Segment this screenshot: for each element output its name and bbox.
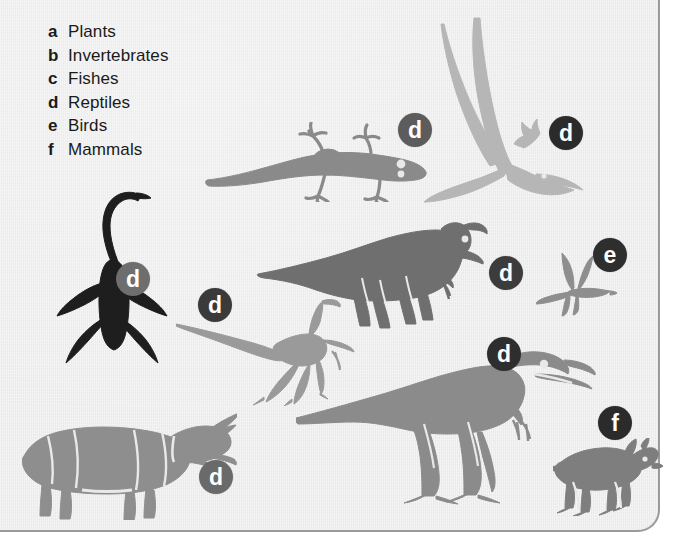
lizard-silhouette [205, 122, 430, 202]
figure-panel: a Plants b Invertebrates c Fishes d Rept… [0, 0, 678, 554]
label-badge-pterosaur: d [549, 116, 583, 150]
legend-item-c: c Fishes [48, 69, 169, 93]
legend-item-d: d Reptiles [48, 93, 169, 117]
legend-key-e: e [48, 116, 68, 136]
label-badge-hadrosaur: d [489, 256, 523, 290]
legend-item-b: b Invertebrates [48, 46, 169, 70]
plesiosaur-silhouette [56, 190, 168, 365]
label-badge-triceratops: d [199, 460, 233, 494]
legend-label-e: Birds [68, 116, 107, 136]
legend-item-e: e Birds [48, 116, 169, 140]
legend-label-d: Reptiles [68, 93, 130, 113]
legend-item-a: a Plants [48, 22, 169, 46]
theropod-silhouette [296, 340, 596, 505]
legend-key-a: a [48, 22, 68, 42]
label-badge-mammal: f [598, 406, 632, 440]
label-badge-ornithomimid: d [198, 288, 232, 322]
legend-item-f: f Mammals [48, 140, 169, 164]
legend-label-b: Invertebrates [68, 46, 169, 66]
legend-key-d: d [48, 93, 68, 113]
label-badge-theropod: d [487, 337, 521, 371]
legend-key-c: c [48, 69, 68, 89]
legend-key-f: f [48, 140, 68, 160]
pterosaur-silhouette [424, 16, 584, 208]
legend-key-b: b [48, 46, 68, 66]
legend: a Plants b Invertebrates c Fishes d Rept… [48, 22, 169, 163]
label-badge-bird: e [593, 238, 627, 272]
legend-label-a: Plants [68, 22, 116, 42]
legend-label-f: Mammals [68, 140, 142, 160]
mammal-silhouette [553, 438, 663, 516]
label-badge-plesiosaur: d [116, 262, 150, 296]
legend-label-c: Fishes [68, 69, 119, 89]
label-badge-lizard: d [398, 113, 432, 147]
